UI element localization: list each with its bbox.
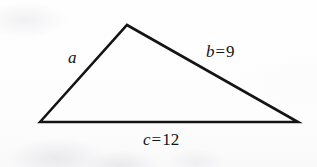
side-label-b-value: 9 [226,42,235,61]
side-label-a: a [68,49,77,66]
triangle-figure: a b=9 c=12 [0,0,317,167]
side-label-b-variable: b [206,42,215,61]
side-label-c-value: 12 [162,130,179,149]
side-label-b-relation: = [215,42,227,61]
triangle-outline [40,25,298,122]
side-label-c-relation: = [151,130,163,149]
side-label-b: b=9 [206,43,235,60]
side-label-c-variable: c [143,130,151,149]
side-label-a-variable: a [68,48,77,67]
side-label-c: c=12 [143,131,179,148]
